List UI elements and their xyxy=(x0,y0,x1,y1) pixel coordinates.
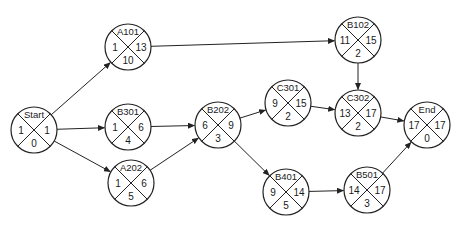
node-b401: B4019145 xyxy=(263,169,309,215)
node-name: Start xyxy=(24,109,44,120)
node-right-value: 14 xyxy=(293,187,305,198)
node-a101: A10111310 xyxy=(105,24,151,70)
edge-a101-to-b102 xyxy=(151,41,335,47)
node-left-value: 9 xyxy=(270,187,276,198)
node-name: C301 xyxy=(277,82,300,93)
edge-b202-to-c301 xyxy=(240,110,266,118)
node-b102: B10211152 xyxy=(335,17,381,63)
network-diagram: Start110A10111310B301164A202165B202693C3… xyxy=(0,0,460,229)
diagram-canvas: Start110A10111310B301164A202165B202693C3… xyxy=(0,0,460,229)
edge-b501-to-end xyxy=(383,142,411,173)
node-bottom-value: 3 xyxy=(215,133,221,144)
node-bottom-value: 2 xyxy=(355,48,361,59)
node-name: End xyxy=(419,104,436,115)
node-left-value: 13 xyxy=(339,108,351,119)
node-left-value: 17 xyxy=(408,120,420,131)
node-right-value: 1 xyxy=(44,125,50,136)
node-name: B501 xyxy=(356,169,378,180)
node-name: C302 xyxy=(347,92,370,103)
node-bottom-value: 3 xyxy=(364,198,370,209)
node-bottom-value: 0 xyxy=(31,138,37,149)
node-bottom-value: 5 xyxy=(128,191,134,202)
node-left-value: 1 xyxy=(112,42,118,53)
node-bottom-value: 4 xyxy=(125,135,131,146)
node-end: End17170 xyxy=(404,102,450,148)
node-left-value: 1 xyxy=(115,178,121,189)
node-c301: C3019152 xyxy=(265,80,311,126)
node-b202: B202693 xyxy=(195,102,241,148)
edge-start-to-b301 xyxy=(57,128,105,130)
node-right-value: 6 xyxy=(138,122,144,133)
edge-a202-to-b202 xyxy=(150,138,198,170)
edge-start-to-a202 xyxy=(54,141,110,172)
edge-b202-to-b401 xyxy=(234,141,269,175)
edge-start-to-a101 xyxy=(51,63,110,115)
node-left-value: 14 xyxy=(348,185,360,196)
node-b501: B50114173 xyxy=(344,167,390,213)
edge-c302-to-end xyxy=(381,117,404,121)
node-right-value: 13 xyxy=(135,42,147,53)
node-bottom-value: 2 xyxy=(355,121,361,132)
node-right-value: 9 xyxy=(228,120,234,131)
node-name: A202 xyxy=(120,162,142,173)
node-bottom-value: 5 xyxy=(283,200,289,211)
node-b301: B301164 xyxy=(105,104,151,150)
node-right-value: 15 xyxy=(365,35,377,46)
node-right-value: 17 xyxy=(365,108,377,119)
edge-b301-to-b202 xyxy=(151,126,195,127)
edge-b401-to-b501 xyxy=(309,191,344,192)
node-right-value: 15 xyxy=(295,98,307,109)
node-left-value: 9 xyxy=(272,98,278,109)
node-right-value: 17 xyxy=(374,185,386,196)
node-a202: A202165 xyxy=(108,160,154,206)
node-start: Start110 xyxy=(11,107,57,153)
node-name: B401 xyxy=(275,171,297,182)
node-c302: C30213172 xyxy=(335,90,381,136)
node-name: B102 xyxy=(347,19,369,30)
node-right-value: 6 xyxy=(141,178,147,189)
node-left-value: 11 xyxy=(340,35,351,46)
node-left-value: 1 xyxy=(18,125,24,136)
nodes-layer: Start110A10111310B301164A202165B202693C3… xyxy=(11,17,450,215)
edge-c301-to-c302 xyxy=(311,106,335,109)
node-left-value: 6 xyxy=(202,120,208,131)
node-name: A101 xyxy=(117,26,139,37)
node-bottom-value: 2 xyxy=(285,111,291,122)
node-name: B301 xyxy=(117,106,139,117)
node-right-value: 17 xyxy=(434,120,446,131)
node-name: B202 xyxy=(207,104,229,115)
node-bottom-value: 10 xyxy=(122,55,134,66)
node-bottom-value: 0 xyxy=(424,133,430,144)
node-left-value: 1 xyxy=(112,122,118,133)
